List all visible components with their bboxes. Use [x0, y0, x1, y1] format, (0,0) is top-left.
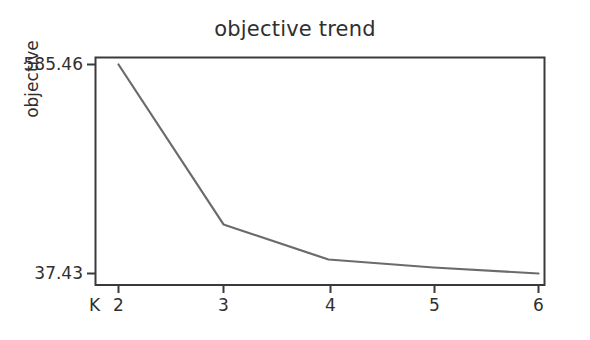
plot-frame — [96, 58, 545, 286]
objective-trend-line — [119, 65, 539, 274]
x-tick-label-4: 4 — [325, 295, 336, 315]
x-axis-title: K — [89, 295, 101, 315]
x-tick-label-5: 5 — [429, 295, 440, 315]
x-tick-label-3: 3 — [218, 295, 229, 315]
chart-figure: objective trend objective 585.46 37.43 K… — [0, 0, 590, 340]
x-tick-label-6: 6 — [533, 295, 544, 315]
y-tick-label-top: 585.46 — [24, 54, 83, 74]
x-tick-label-2: 2 — [113, 295, 124, 315]
plot-canvas: 585.46 37.43 K 2 3 4 5 6 — [0, 0, 590, 340]
y-tick-label-bottom: 37.43 — [34, 263, 83, 283]
